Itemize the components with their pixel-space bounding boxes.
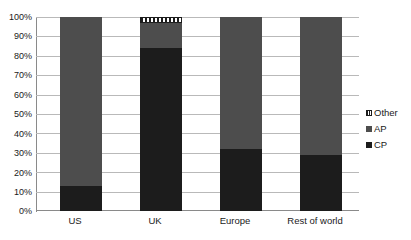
bar-group-europe[interactable] — [220, 17, 262, 211]
bar-segment-ap[interactable] — [300, 17, 342, 155]
bar-segment-ap[interactable] — [220, 17, 262, 149]
plot-area — [36, 17, 359, 211]
ap-swatch-icon — [366, 126, 372, 132]
bar-segment-cp[interactable] — [300, 155, 342, 211]
y-axis-tick-20: 20% — [0, 169, 32, 178]
y-axis-tick-10: 10% — [0, 188, 32, 197]
legend-label: AP — [374, 124, 387, 134]
bar-group-us[interactable] — [60, 17, 102, 211]
chart-legend: Other AP CP — [366, 105, 411, 153]
y-axis-tick-80: 80% — [0, 52, 32, 61]
bar-group-rest-of-world[interactable] — [300, 17, 342, 211]
legend-item-other[interactable]: Other — [366, 105, 411, 121]
y-axis-tick-0: 0% — [0, 207, 32, 216]
x-axis-tick-uk: UK — [120, 215, 190, 226]
bar-segment-ap[interactable] — [60, 17, 102, 186]
legend-item-ap[interactable]: AP — [366, 121, 411, 137]
bar-segment-cp[interactable] — [220, 149, 262, 211]
x-axis-tick-rest-of-world: Rest of world — [280, 215, 350, 226]
cp-swatch-icon — [366, 142, 372, 148]
legend-label: Other — [374, 108, 398, 118]
bar-group-uk[interactable] — [140, 17, 182, 211]
legend-item-cp[interactable]: CP — [366, 137, 411, 153]
y-axis-tick-70: 70% — [0, 71, 32, 80]
bar-segment-cp[interactable] — [140, 48, 182, 211]
y-axis-tick-100: 100% — [0, 13, 32, 22]
y-axis-tick-50: 50% — [0, 110, 32, 119]
other-swatch-icon — [366, 110, 372, 116]
y-axis-tick-40: 40% — [0, 130, 32, 139]
x-axis-tick-europe: Europe — [200, 215, 270, 226]
bar-segment-ap[interactable] — [140, 23, 182, 48]
y-axis-tick-60: 60% — [0, 91, 32, 100]
legend-label: CP — [374, 140, 387, 150]
y-axis-tick-90: 90% — [0, 32, 32, 41]
bar-segment-other[interactable] — [140, 17, 182, 23]
bar-segment-cp[interactable] — [60, 186, 102, 211]
stacked-bar-chart: 100% 90% 80% 70% 60% 50% 40% 30% 20% 10%… — [0, 0, 411, 240]
y-axis-tick-30: 30% — [0, 149, 32, 158]
x-axis-tick-us: US — [40, 215, 110, 226]
